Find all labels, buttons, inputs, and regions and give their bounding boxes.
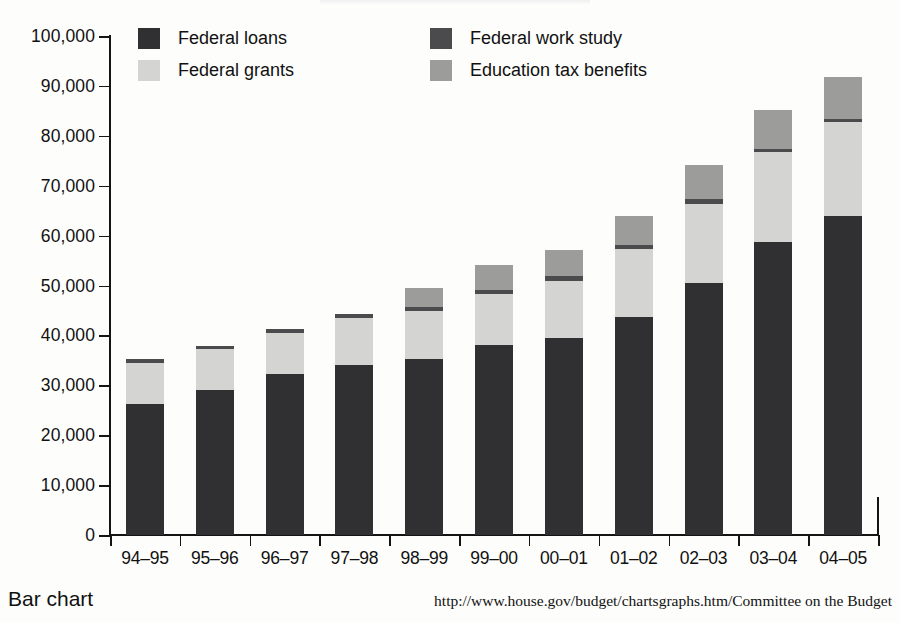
bar-segment-federal-grants[interactable] xyxy=(335,318,373,364)
y-axis-label: 80,000 xyxy=(9,125,95,146)
bar-segment-federal-loans[interactable] xyxy=(545,338,583,535)
x-axis-tick xyxy=(459,535,461,546)
x-axis-tick xyxy=(389,535,391,546)
bar-segment-federal-work-study[interactable] xyxy=(335,314,373,318)
bar-segment-education-tax-benefits[interactable] xyxy=(754,110,792,148)
chart-legend: Federal loansFederal grantsFederal work … xyxy=(138,28,738,88)
bar-segment-federal-work-study[interactable] xyxy=(196,346,234,349)
bar-segment-federal-work-study[interactable] xyxy=(266,329,304,333)
y-axis-tick xyxy=(99,86,110,88)
bar-segment-federal-loans[interactable] xyxy=(824,216,862,535)
bar-segment-federal-loans[interactable] xyxy=(615,317,653,535)
bar-segment-federal-loans[interactable] xyxy=(754,242,792,535)
y-axis-label: 60,000 xyxy=(9,225,95,246)
y-axis-label: 100,000 xyxy=(9,26,95,47)
bar-03-04[interactable] xyxy=(754,110,792,535)
y-axis-tick xyxy=(99,485,110,487)
bar-segment-federal-loans[interactable] xyxy=(196,390,234,535)
bar-segment-education-tax-benefits[interactable] xyxy=(475,265,513,290)
bar-segment-federal-loans[interactable] xyxy=(335,365,373,535)
bar-chart: 010,00020,00030,00040,00050,00060,00070,… xyxy=(0,0,900,585)
bar-segment-federal-work-study[interactable] xyxy=(754,149,792,152)
legend-swatch-federal-loans xyxy=(138,28,160,49)
bar-02-03[interactable] xyxy=(685,165,723,535)
legend-label: Federal loans xyxy=(178,28,287,49)
bar-segment-federal-grants[interactable] xyxy=(196,349,234,390)
y-axis-tick xyxy=(99,335,110,337)
y-axis-label: 50,000 xyxy=(9,275,95,296)
x-axis-tick xyxy=(878,535,880,546)
legend-swatch-federal-work-study xyxy=(430,28,452,49)
x-axis-tick xyxy=(738,535,740,546)
caption-source-url: http://www.house.gov/budget/chartsgraphs… xyxy=(434,592,892,610)
y-axis-tick xyxy=(99,286,110,288)
bar-95-96[interactable] xyxy=(196,346,234,535)
plot-area xyxy=(110,36,878,535)
x-axis-label: 04–05 xyxy=(801,548,885,569)
bar-segment-federal-grants[interactable] xyxy=(754,152,792,242)
bar-segment-federal-grants[interactable] xyxy=(615,249,653,317)
x-axis-tick xyxy=(529,535,531,546)
legend-label: Federal work study xyxy=(470,28,622,49)
bar-segment-federal-loans[interactable] xyxy=(266,374,304,535)
y-axis-tick xyxy=(99,435,110,437)
y-axis-tick xyxy=(99,186,110,188)
bar-segment-federal-grants[interactable] xyxy=(545,281,583,338)
bar-segment-federal-grants[interactable] xyxy=(126,363,164,404)
x-axis-tick xyxy=(599,535,601,546)
bar-04-05[interactable] xyxy=(824,77,862,535)
x-axis-tick xyxy=(180,535,182,546)
caption-label: Bar chart xyxy=(8,587,93,611)
bar-segment-federal-grants[interactable] xyxy=(475,294,513,345)
legend-item-education-tax-benefits[interactable]: Education tax benefits xyxy=(430,60,647,81)
bar-segment-education-tax-benefits[interactable] xyxy=(685,165,723,199)
bar-00-01[interactable] xyxy=(545,250,583,535)
x-axis-tick xyxy=(669,535,671,546)
bar-97-98[interactable] xyxy=(335,314,373,535)
bar-segment-federal-work-study[interactable] xyxy=(405,307,443,311)
bar-segment-federal-loans[interactable] xyxy=(405,359,443,535)
bar-segment-federal-loans[interactable] xyxy=(126,404,164,535)
y-axis-label: 20,000 xyxy=(9,425,95,446)
y-axis-label: 40,000 xyxy=(9,325,95,346)
bar-segment-federal-work-study[interactable] xyxy=(475,290,513,294)
bar-segment-federal-work-study[interactable] xyxy=(615,245,653,249)
y-axis-tick xyxy=(99,385,110,387)
legend-item-federal-work-study[interactable]: Federal work study xyxy=(430,28,622,49)
bar-segment-federal-work-study[interactable] xyxy=(545,276,583,280)
bar-segment-education-tax-benefits[interactable] xyxy=(615,216,653,245)
bar-segment-federal-work-study[interactable] xyxy=(824,119,862,122)
y-axis-label: 70,000 xyxy=(9,175,95,196)
y-axis-label: 10,000 xyxy=(9,475,95,496)
x-axis-tick xyxy=(250,535,252,546)
bar-segment-federal-work-study[interactable] xyxy=(685,199,723,203)
bar-segment-education-tax-benefits[interactable] xyxy=(824,77,862,119)
bar-99-00[interactable] xyxy=(475,265,513,535)
x-axis-tick xyxy=(319,535,321,546)
caption-bar: Bar chart http://www.house.gov/budget/ch… xyxy=(0,585,900,623)
bar-segment-federal-loans[interactable] xyxy=(685,283,723,535)
legend-label: Education tax benefits xyxy=(470,60,647,81)
y-axis-tick xyxy=(99,36,110,38)
y-axis-tick xyxy=(99,136,110,138)
bar-98-99[interactable] xyxy=(405,288,443,535)
bar-94-95[interactable] xyxy=(126,359,164,535)
bar-segment-federal-grants[interactable] xyxy=(266,333,304,374)
y-axis-label: 0 xyxy=(9,525,95,546)
bar-segment-federal-work-study[interactable] xyxy=(126,359,164,362)
bar-segment-federal-grants[interactable] xyxy=(685,204,723,283)
bar-96-97[interactable] xyxy=(266,329,304,535)
bar-segment-education-tax-benefits[interactable] xyxy=(405,288,443,307)
y-axis-tick xyxy=(99,236,110,238)
y-axis-tick xyxy=(99,535,110,537)
bar-segment-education-tax-benefits[interactable] xyxy=(545,250,583,276)
bar-segment-federal-grants[interactable] xyxy=(405,311,443,359)
bar-segment-federal-loans[interactable] xyxy=(475,345,513,535)
legend-swatch-education-tax-benefits xyxy=(430,60,452,81)
legend-item-federal-loans[interactable]: Federal loans xyxy=(138,28,287,49)
y-axis-label: 30,000 xyxy=(9,375,95,396)
bar-segment-federal-grants[interactable] xyxy=(824,122,862,215)
bar-01-02[interactable] xyxy=(615,216,653,535)
legend-item-federal-grants[interactable]: Federal grants xyxy=(138,60,294,81)
y-axis-label: 90,000 xyxy=(9,75,95,96)
